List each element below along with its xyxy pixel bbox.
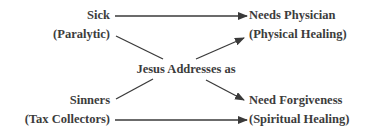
arrow-center-to-forgiveness: [206, 80, 244, 100]
sick-label: Sick: [87, 7, 110, 24]
spiritual-healing-label: (Spiritual Healing): [249, 111, 349, 128]
physical-healing-label: (Physical Healing): [249, 26, 347, 43]
paralytic-label: (Paralytic): [53, 26, 110, 43]
line-sinners-to-center: [116, 79, 153, 99]
needs-physician-label: Needs Physician: [249, 7, 335, 24]
tax-collectors-label: (Tax Collectors): [25, 111, 110, 128]
sinners-label: Sinners: [70, 92, 110, 109]
line-paralytic-to-center: [116, 36, 163, 59]
center-label: Jesus Addresses as: [122, 61, 250, 78]
arrow-center-to-physical-healing: [196, 38, 244, 59]
need-forgiveness-label: Need Forgiveness: [249, 92, 342, 109]
